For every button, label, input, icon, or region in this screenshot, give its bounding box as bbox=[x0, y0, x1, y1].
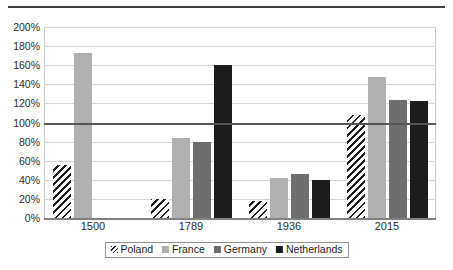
bar-france-2015[interactable] bbox=[368, 77, 386, 218]
y-tick-label: 20% bbox=[0, 194, 40, 205]
y-tick-label: 0% bbox=[0, 213, 40, 224]
chart-legend: PolandFranceGermanyNetherlands bbox=[104, 242, 348, 258]
y-tick-label: 160% bbox=[0, 60, 40, 71]
y-axis-labels: 200%180%160%140%120%100%80%60%40%20%0% bbox=[0, 27, 40, 218]
bar-poland-2015[interactable] bbox=[347, 115, 365, 218]
bar-poland-1936[interactable] bbox=[249, 201, 267, 218]
y-tick-label: 80% bbox=[0, 136, 40, 147]
y-tick-label: 40% bbox=[0, 175, 40, 186]
legend-item-france[interactable]: France bbox=[162, 244, 205, 255]
x-tick-label: 1936 bbox=[240, 220, 338, 232]
bar-france-1500[interactable] bbox=[74, 53, 92, 218]
y-tick-label: 180% bbox=[0, 41, 40, 52]
legend-item-germany[interactable]: Germany bbox=[214, 244, 267, 255]
legend-swatch-netherlands-icon bbox=[276, 246, 283, 253]
chart-container: 200%180%160%140%120%100%80%60%40%20%0% 1… bbox=[0, 0, 453, 270]
bar-germany-1789[interactable] bbox=[193, 142, 211, 218]
legend-swatch-germany-icon bbox=[214, 246, 221, 253]
bar-poland-1500[interactable] bbox=[53, 165, 71, 218]
top-divider bbox=[8, 6, 445, 8]
legend-label: Germany bbox=[224, 244, 267, 255]
bar-germany-1936[interactable] bbox=[291, 174, 309, 218]
y-tick-label: 200% bbox=[0, 22, 40, 33]
bar-france-1789[interactable] bbox=[172, 138, 190, 218]
plot-area bbox=[44, 27, 436, 218]
bar-germany-2015[interactable] bbox=[389, 100, 407, 218]
bar-netherlands-1936[interactable] bbox=[312, 180, 330, 218]
legend-swatch-france-icon bbox=[162, 246, 169, 253]
x-tick-label: 1500 bbox=[44, 220, 142, 232]
gridline-emphasis bbox=[44, 123, 436, 125]
bar-poland-1789[interactable] bbox=[151, 199, 169, 218]
bar-france-1936[interactable] bbox=[270, 178, 288, 218]
legend-label: Netherlands bbox=[286, 244, 343, 255]
x-axis-labels: 1500178919362015 bbox=[44, 220, 436, 232]
bar-netherlands-2015[interactable] bbox=[410, 101, 428, 218]
y-tick-label: 60% bbox=[0, 155, 40, 166]
legend-label: Poland bbox=[120, 244, 153, 255]
x-tick-label: 1789 bbox=[142, 220, 240, 232]
y-tick-label: 120% bbox=[0, 98, 40, 109]
x-tick-label: 2015 bbox=[338, 220, 436, 232]
bar-netherlands-1789[interactable] bbox=[214, 65, 232, 218]
legend-label: France bbox=[172, 244, 205, 255]
legend-item-poland[interactable]: Poland bbox=[110, 244, 153, 255]
y-tick-label: 100% bbox=[0, 117, 40, 128]
legend-swatch-poland-icon bbox=[110, 246, 117, 253]
legend-item-netherlands[interactable]: Netherlands bbox=[276, 244, 343, 255]
y-tick-label: 140% bbox=[0, 79, 40, 90]
